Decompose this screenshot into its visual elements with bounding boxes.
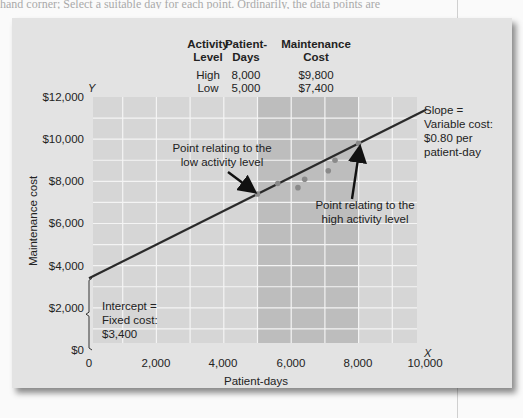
intercept-label-1: Intercept =	[102, 300, 157, 312]
slope-label-2: Variable cost:	[424, 118, 493, 130]
intercept-label-2: Fixed cost:	[102, 314, 158, 326]
x-tick-8000: 8,000	[344, 357, 373, 369]
low-point-label-1: Point relating to the	[172, 142, 271, 154]
table-header-days-2: Days	[232, 51, 260, 63]
x-tick-4000: 4,000	[209, 357, 238, 369]
slope-label-3: $0.80 per	[424, 132, 473, 144]
y-tick-labels: $0 $2,000 $4,000 $6,000 $8,000 $10,000 $…	[42, 91, 84, 356]
slope-label-4: patient-day	[424, 146, 481, 158]
intercept-bracket	[86, 278, 92, 350]
data-point	[255, 191, 261, 197]
x-tick-6000: 6,000	[277, 357, 306, 369]
annotation-slope: Slope = Variable cost: $0.80 per patient…	[424, 104, 493, 158]
table-header-cost-2: Cost	[303, 51, 329, 63]
y-tick-8000: $8,000	[49, 175, 84, 187]
high-point-label-2: high activity level	[322, 213, 409, 225]
data-point	[275, 181, 281, 187]
table-header-days-1: Patient-	[225, 38, 267, 50]
table-cell-low-cost: $7,400	[298, 82, 333, 94]
data-point	[302, 176, 308, 182]
high-point-label-1: Point relating to the	[315, 199, 414, 211]
x-tick-2000: 2,000	[142, 357, 171, 369]
table-header-cost-1: Maintenance	[281, 38, 351, 50]
brace-icon	[86, 278, 92, 350]
x-tick-10000: 10,000	[407, 357, 442, 369]
low-point-label-2: low activity level	[181, 156, 263, 168]
y-axis-title: Maintenance cost	[27, 175, 39, 266]
intercept-label-3: $3,400	[102, 328, 137, 340]
table-cell-low-level: Low	[197, 82, 219, 94]
y-tick-0: $0	[71, 344, 84, 356]
data-point	[295, 185, 301, 191]
data-point	[356, 141, 362, 147]
data-point	[325, 168, 331, 174]
y-tick-2000: $2,000	[49, 302, 84, 314]
x-tick-0: 0	[86, 357, 92, 369]
slope-label-1: Slope =	[424, 104, 464, 116]
table-header-activity-1: Activity	[187, 38, 229, 50]
table-header-activity-2: Level	[193, 51, 222, 63]
y-tick-6000: $6,000	[49, 217, 84, 229]
table-cell-high-cost: $9,800	[298, 69, 333, 81]
y-tick-10000: $10,000	[42, 133, 84, 145]
table-cell-low-days: 5,000	[232, 82, 261, 94]
x-axis-title: Patient-days	[224, 375, 288, 387]
data-point	[332, 157, 338, 163]
cost-chart: Activity Level Patient- Days Maintenance…	[0, 0, 523, 418]
y-tick-12000: $12,000	[42, 91, 84, 103]
y-axis-letter: Y	[88, 82, 96, 94]
table-cell-high-level: High	[196, 69, 220, 81]
summary-table: Activity Level Patient- Days Maintenance…	[187, 38, 351, 94]
x-tick-labels: 0 2,000 4,000 6,000 8,000 10,000	[86, 357, 443, 369]
table-cell-high-days: 8,000	[232, 69, 261, 81]
y-tick-4000: $4,000	[49, 260, 84, 272]
